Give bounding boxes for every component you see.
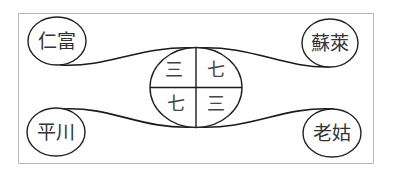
quadrant-bottom-left: 七 bbox=[167, 93, 185, 114]
node-bottom-right: 老姑 bbox=[303, 109, 361, 157]
node-bottom-right-label: 老姑 bbox=[313, 122, 351, 144]
diagram-canvas: 三 七 七 三 仁富 蘇萊 平川 老姑 bbox=[0, 0, 394, 173]
node-top-right-label: 蘇萊 bbox=[311, 32, 349, 54]
node-top-right: 蘇萊 bbox=[302, 19, 358, 67]
node-bottom-left: 平川 bbox=[27, 108, 85, 156]
node-top-left: 仁富 bbox=[28, 17, 86, 65]
node-bottom-left-label: 平川 bbox=[37, 121, 75, 143]
quadrant-bottom-right: 三 bbox=[207, 93, 225, 114]
node-top-left-label: 仁富 bbox=[38, 30, 76, 52]
center-circle: 三 七 七 三 bbox=[150, 48, 242, 128]
quadrant-top-left: 三 bbox=[165, 59, 183, 80]
quadrant-top-right: 七 bbox=[207, 59, 225, 80]
